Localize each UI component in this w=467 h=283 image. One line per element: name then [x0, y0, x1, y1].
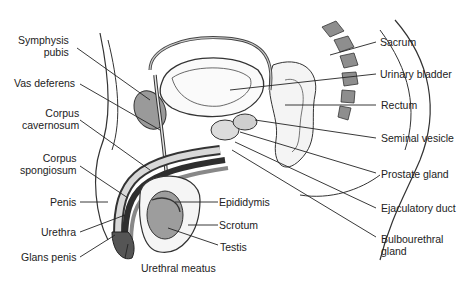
label-line: cavernosum	[22, 119, 79, 131]
label-symphysis-pubis: Symphysis pubis	[18, 34, 69, 58]
label-line: Corpus	[20, 152, 77, 164]
label-testis: Testis	[220, 241, 247, 253]
label-line: pubis	[18, 46, 69, 58]
label-line: Urethra	[41, 226, 76, 238]
label-line: spongiosum	[20, 164, 77, 176]
label-line: Bulbourethral	[381, 233, 443, 245]
label-ejaculatory-duct: Ejaculatory duct	[381, 202, 456, 214]
label-line: gland	[381, 245, 443, 257]
label-line: Urethral meatus	[141, 262, 216, 274]
label-line: Prostate gland	[381, 168, 449, 180]
label-urethra: Urethra	[41, 226, 76, 238]
label-scrotum: Scrotum	[219, 219, 258, 231]
label-penis: Penis	[50, 196, 76, 208]
label-line: Scrotum	[219, 219, 258, 231]
label-line: Penis	[50, 196, 76, 208]
label-sacrum: Sacrum	[380, 36, 416, 48]
label-urinary-bladder: Urinary bladder	[380, 68, 452, 80]
anatomy-diagram: Symphysis pubis Vas deferens Corpus cave…	[0, 0, 467, 283]
label-line: Glans penis	[21, 251, 76, 263]
label-line: Corpus	[22, 107, 79, 119]
label-line: Symphysis	[18, 34, 69, 46]
label-seminal-vesicle: Seminal vesicle	[381, 132, 454, 144]
label-line: Rectum	[381, 99, 417, 111]
label-corpus-spongiosum: Corpus spongiosum	[20, 152, 77, 176]
label-line: Ejaculatory duct	[381, 202, 456, 214]
label-urethral-meatus: Urethral meatus	[141, 262, 216, 274]
label-prostate-gland: Prostate gland	[381, 168, 449, 180]
label-bulbourethral-gland: Bulbourethral gland	[381, 233, 443, 257]
label-line: Urinary bladder	[380, 68, 452, 80]
label-epididymis: Epididymis	[219, 196, 270, 208]
label-line: Epididymis	[219, 196, 270, 208]
label-glans-penis: Glans penis	[21, 251, 76, 263]
label-vas-deferens: Vas deferens	[14, 77, 75, 89]
label-line: Vas deferens	[14, 77, 75, 89]
label-corpus-cavernosum: Corpus cavernosum	[22, 107, 79, 131]
label-line: Seminal vesicle	[381, 132, 454, 144]
label-rectum: Rectum	[381, 99, 417, 111]
label-line: Sacrum	[380, 36, 416, 48]
label-line: Testis	[220, 241, 247, 253]
